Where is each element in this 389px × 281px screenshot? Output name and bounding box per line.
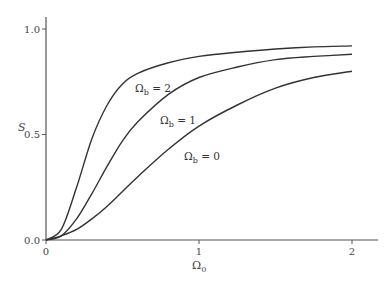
y-tick-label: 0.0 [24, 235, 40, 246]
y-tick-label: 0.5 [24, 129, 40, 140]
curve-label-omega-b-0: Ωb = 0 [184, 150, 220, 165]
y-tick-label: 1.0 [24, 24, 40, 35]
curve-omega-b-2 [46, 46, 352, 240]
y-axis-label: S [18, 121, 26, 134]
x-tick-label: 2 [349, 246, 355, 257]
axes [42, 17, 378, 244]
x-tick-label: 1 [196, 246, 202, 257]
curve-label-omega-b-2: Ωb = 2 [135, 82, 171, 97]
curves [46, 46, 352, 240]
curve-omega-b-1 [46, 54, 352, 240]
line-chart: 0120.00.51.0 S Ω0 Ωb = 2 Ωb = 1 Ωb = 0 [0, 0, 389, 281]
x-axis-label: Ω0 [192, 259, 206, 274]
curve-label-omega-b-1: Ωb = 1 [160, 114, 196, 129]
x-tick-label: 0 [43, 246, 49, 257]
